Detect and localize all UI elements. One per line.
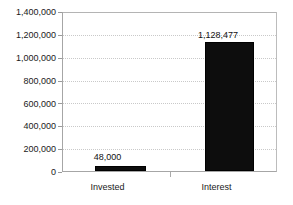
y-axis-tick-label: 0: [0, 168, 56, 177]
y-axis-tick-label: 1,000,000: [0, 54, 56, 63]
y-axis-tick-label: 400,000: [0, 122, 56, 131]
y-axis-tick-label: 1,400,000: [0, 8, 56, 17]
bar-interest: [205, 42, 254, 171]
bar-invested: [95, 166, 146, 172]
y-axis-tick-label: 200,000: [0, 145, 56, 154]
x-axis-tick-mark: [170, 172, 171, 177]
y-axis-tick-mark: [58, 172, 62, 173]
y-axis-tick-label: 600,000: [0, 100, 56, 109]
x-axis-label-interest: Interest: [183, 182, 250, 193]
data-label-interest: 1,128,477: [179, 30, 257, 40]
bar-chart: 1,400,000 1,200,000 1,000,000 800,000 60…: [0, 0, 293, 205]
gridline: [63, 12, 276, 13]
x-axis-label-invested: Invested: [74, 182, 141, 193]
y-axis-tick-label: 800,000: [0, 77, 56, 86]
y-axis-tick-label: 1,200,000: [0, 31, 56, 40]
data-label-invested: 48,000: [74, 152, 141, 162]
